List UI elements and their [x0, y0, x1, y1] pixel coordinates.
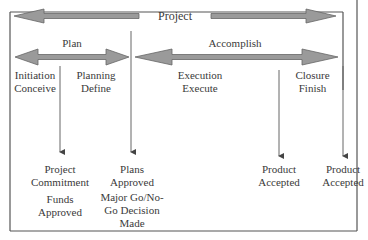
phase-planning: Planning Define: [66, 69, 126, 95]
accomplish-double-arrow: [135, 49, 338, 65]
phase-initiation: Initiation Conceive: [10, 69, 60, 95]
milestone-plans-approved: Plans Approved Major Go/No- Go Decision …: [98, 163, 166, 230]
milestone-product-accepted-2: Product Accepted: [316, 163, 368, 189]
plan-double-arrow: [15, 49, 129, 65]
project-left-arrow: [14, 9, 139, 23]
milestone-product-accepted-1: Product Accepted: [252, 163, 306, 189]
phase-execution: Execution Execute: [165, 69, 235, 95]
project-label: Project: [155, 10, 195, 23]
accomplish-label: Accomplish: [200, 37, 270, 50]
milestone-project-commitment: Project Commitment Funds Approved: [28, 163, 92, 219]
plan-label: Plan: [52, 37, 92, 50]
project-right-arrow: [211, 9, 336, 23]
phase-closure: Closure Finish: [285, 69, 340, 95]
